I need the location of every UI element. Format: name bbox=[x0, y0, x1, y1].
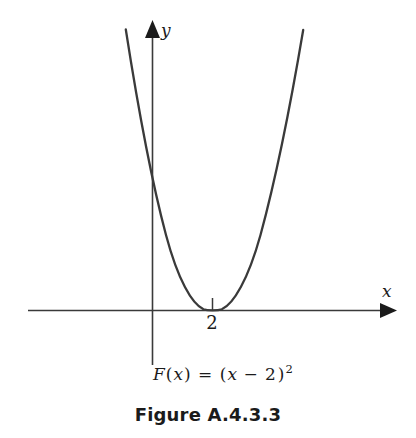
figure-caption: Figure A.4.3.3 bbox=[0, 405, 416, 425]
x-axis-arrowhead-icon bbox=[380, 303, 397, 318]
formula-exponent: 2 bbox=[286, 362, 293, 376]
formula-minus: − bbox=[242, 364, 258, 384]
formula-equals: = bbox=[197, 364, 213, 384]
figure-container: y x 2 F(x) = (x − 2)2 Figure A.4.3.3 bbox=[0, 0, 416, 438]
y-axis-arrowhead-icon bbox=[145, 20, 160, 38]
formula-function-name: F bbox=[153, 364, 165, 384]
formula-argument: x bbox=[173, 364, 183, 384]
formula-variable: x bbox=[227, 364, 237, 384]
function-formula: F(x) = (x − 2)2 bbox=[153, 366, 293, 384]
formula-close-paren: ) bbox=[277, 364, 286, 384]
x-tick-label-2: 2 bbox=[196, 314, 228, 332]
formula-constant: 2 bbox=[264, 364, 277, 384]
formula-close-paren-arg: ) bbox=[183, 364, 192, 384]
y-axis-label: y bbox=[161, 22, 171, 39]
x-axis-label: x bbox=[382, 283, 392, 300]
